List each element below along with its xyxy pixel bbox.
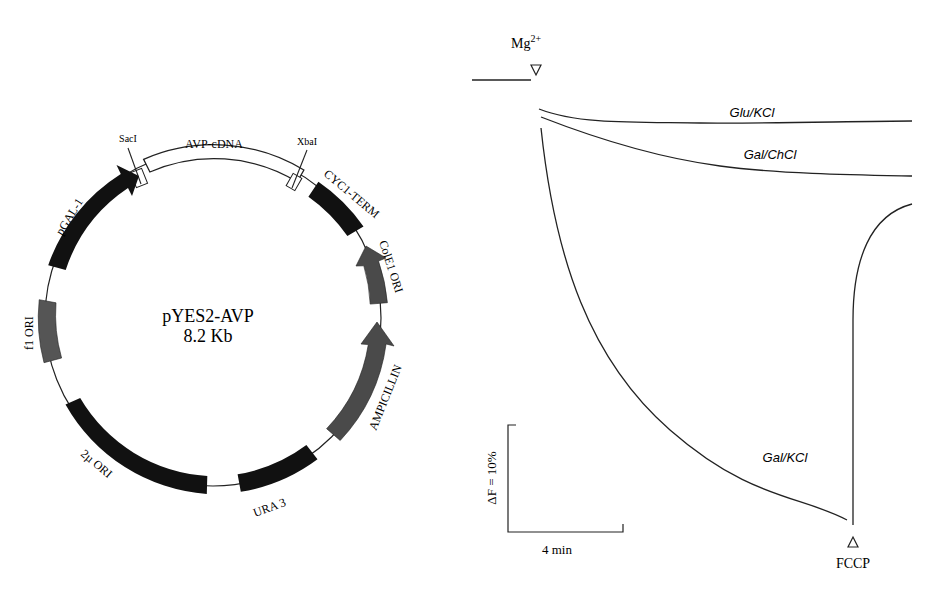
ura3-label: URA 3	[251, 495, 287, 520]
trace-gal-chcl-label: Gal/ChCl	[744, 147, 798, 162]
figure-canvas: SacI AVP-cDNA XbaI pGAL-1 CYC1-TERM ColE…	[0, 0, 933, 604]
f1-ori-block	[38, 300, 61, 363]
fluorescence-traces: Mg2+ Glu/KCl Gal/ChCl Gal/KCl FCCP ΔF = …	[472, 33, 912, 571]
fccp-label: FCCP	[836, 556, 870, 571]
scale-bar-x-label: 4 min	[542, 542, 572, 557]
scale-bar	[508, 425, 623, 532]
f1-ori-label: f1 ORI	[22, 316, 36, 350]
avp-cdna-label: AVP-cDNA	[185, 137, 243, 151]
ura3-block	[238, 445, 318, 492]
plasmid-name: pYES2-AVP	[162, 306, 254, 326]
mg-addition-label: Mg2+	[511, 33, 541, 51]
scale-bar-y-label: ΔF = 10%	[484, 451, 499, 504]
mg-addition-marker-icon	[531, 65, 541, 75]
trace-gal-kcl-label: Gal/KCl	[763, 450, 809, 465]
trace-glu-kcl-label: Glu/KCl	[730, 105, 776, 120]
saci-label: SacI	[119, 133, 137, 144]
plasmid-map: SacI AVP-cDNA XbaI pGAL-1 CYC1-TERM ColE…	[22, 133, 406, 520]
trace-fccp-recovery	[853, 204, 912, 525]
fccp-addition-marker-icon	[848, 537, 858, 547]
trace-gal-chcl	[541, 117, 912, 176]
plasmid-size: 8.2 Kb	[184, 326, 233, 346]
trace-glu-kcl	[539, 109, 912, 123]
xbai-label: XbaI	[297, 136, 317, 147]
